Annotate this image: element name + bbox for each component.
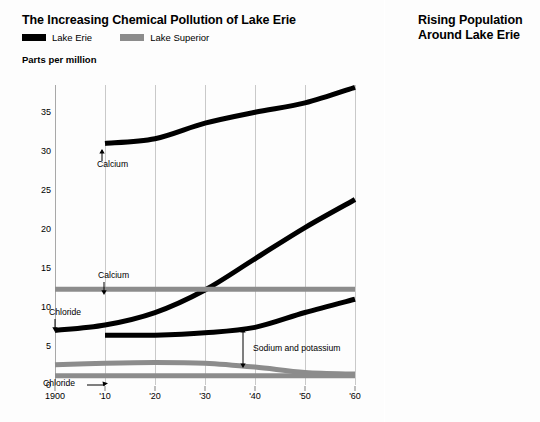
- y-tick-label: 30: [41, 146, 51, 156]
- annotation-calcium-superior: Calcium: [98, 271, 129, 281]
- page-title-left: The Increasing Chemical Pollution of Lak…: [22, 13, 296, 28]
- legend-item-lake-erie: Lake Erie: [22, 32, 92, 43]
- x-tick-label: '20: [149, 391, 161, 401]
- page-title-right: Rising Population Around Lake Erie: [418, 13, 523, 43]
- plot-area-pollution: [55, 85, 355, 385]
- legend-label-lake-superior: Lake Superior: [150, 32, 209, 43]
- x-tick-label: '60: [349, 391, 361, 401]
- x-tick-label: '10: [99, 391, 111, 401]
- annotation-calcium-erie: Calcium: [97, 160, 128, 170]
- legend-swatch-lake-erie: [22, 34, 46, 41]
- x-tick-label: 1900: [45, 391, 65, 401]
- gridline-vertical: [355, 85, 356, 385]
- x-tick-label: '30: [199, 391, 211, 401]
- y-tick-label: 25: [41, 185, 51, 195]
- y-axis-unit-left: Parts per million: [22, 54, 96, 65]
- x-tick-label: '40: [249, 391, 261, 401]
- series-lines-pollution: [55, 85, 355, 385]
- annotation-label: Chloride: [43, 378, 75, 388]
- y-tick-label: 35: [41, 107, 51, 117]
- annotation-chloride-superior: Chloride: [43, 379, 75, 389]
- annotation-chloride-erie: Chloride: [49, 308, 81, 318]
- chart-page: The Increasing Chemical Pollution of Lak…: [0, 0, 540, 422]
- x-axis-left: 1900'10'20'30'40'50'60: [55, 391, 355, 405]
- series-line: [55, 362, 355, 374]
- arrow-double-vertical-icon: [238, 328, 248, 378]
- legend-item-lake-superior: Lake Superior: [120, 32, 209, 43]
- annotation-label: Calcium: [98, 270, 129, 280]
- arrow-down-icon: [100, 282, 109, 295]
- x-tick-label: '50: [299, 391, 311, 401]
- legend-label-lake-erie: Lake Erie: [52, 32, 92, 43]
- y-tick-label: 15: [41, 263, 51, 273]
- chart-panel-population: Rising Population Around Lake Erie Milli…: [385, 0, 540, 422]
- arrow-down-icon: [51, 319, 60, 332]
- annotation-label: Chloride: [49, 307, 81, 317]
- y-axis-left: 05101520253035: [25, 85, 51, 385]
- annotation-label: Sodium and potassium: [253, 343, 340, 353]
- legend: Lake Erie Lake Superior: [22, 32, 237, 43]
- series-line: [105, 87, 355, 143]
- chart-panel-pollution: The Increasing Chemical Pollution of Lak…: [0, 0, 385, 422]
- y-tick-label: 20: [41, 224, 51, 234]
- annotation-sodium-potassium: Sodium and potassium: [253, 344, 340, 354]
- arrow-up-icon: [98, 149, 107, 161]
- arrow-right-icon: [87, 380, 109, 389]
- y-tick-label: 5: [46, 341, 51, 351]
- legend-swatch-lake-superior: [120, 34, 144, 41]
